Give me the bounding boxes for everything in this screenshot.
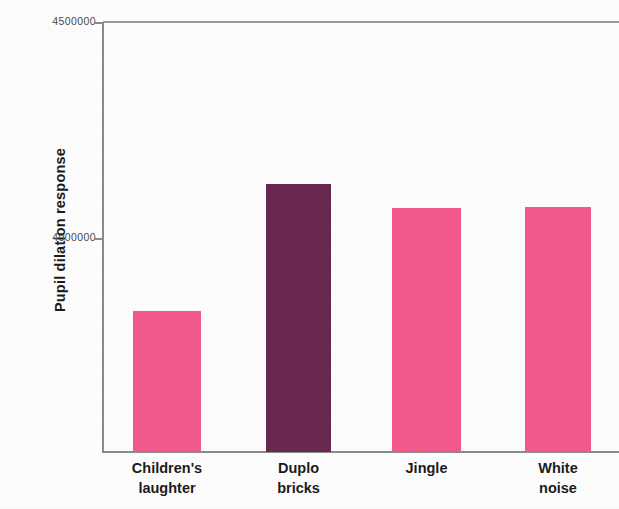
x-tick-label-line: Children's (107, 458, 227, 478)
bar-chart: Pupil dilation response 4500000 4000000 … (0, 0, 619, 509)
bar-fill (392, 208, 461, 452)
x-tick-label-white-noise: White noise (498, 458, 618, 498)
bar-children-laughter (133, 311, 201, 452)
y-tick-label-4500000: 4500000 (34, 15, 96, 27)
x-tick-label-line: noise (498, 478, 618, 498)
x-tick-label-line: Jingle (367, 458, 487, 478)
bar-fill (133, 311, 201, 452)
bar-fill (266, 184, 331, 452)
x-tick-label-duplo-bricks: Duplo bricks (239, 458, 359, 498)
x-tick-label-line: bricks (239, 478, 359, 498)
y-tick-label-4000000: 4000000 (34, 231, 96, 243)
bar-duplo-bricks (266, 184, 331, 452)
plot-area (103, 22, 619, 452)
x-axis-labels: Children's laughter Duplo bricks Jingle … (103, 458, 619, 509)
x-tick-label-children-laughter: Children's laughter (107, 458, 227, 498)
x-tick-label-jingle: Jingle (367, 458, 487, 478)
x-tick-label-line: Duplo (239, 458, 359, 478)
bar-jingle (392, 208, 461, 452)
x-tick-label-line: White (498, 458, 618, 478)
x-tick-label-line: laughter (107, 478, 227, 498)
y-axis-title: Pupil dilation response (52, 100, 68, 360)
bar-fill (525, 207, 591, 452)
bar-white-noise (525, 207, 591, 452)
